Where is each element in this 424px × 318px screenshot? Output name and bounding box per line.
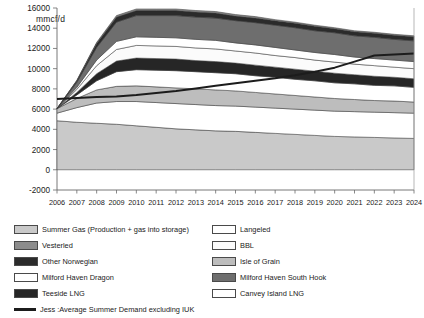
legend-color-swatch [14, 257, 38, 266]
x-axis-tick-label: 2016 [247, 198, 263, 207]
legend-item: Other Norwegian [14, 254, 214, 269]
x-axis-tick-label: 2011 [148, 198, 164, 207]
legend-item: Jess :Average Summer Demand excluding IU… [14, 302, 214, 317]
legend-item: Summer Gas (Production + gas into storag… [14, 222, 214, 237]
x-axis-tick-label: 2021 [346, 198, 362, 207]
stacked-area-chart: 1600014000120001000080006000400020000-20… [0, 0, 424, 218]
legend-item-label: Milford Haven Dragon [42, 273, 114, 282]
y-axis-tick-label: 0 [45, 166, 50, 175]
legend-line-marker [14, 308, 36, 311]
legend-color-swatch [14, 289, 38, 298]
x-axis-tick-label: 2010 [128, 198, 144, 207]
legend-item-label: Milford Haven South Hook [240, 273, 326, 282]
legend-color-swatch [14, 273, 38, 282]
y-axis-tick-label: 4000 [32, 125, 51, 134]
x-axis-tick-label: 2006 [49, 198, 65, 207]
legend-item-label: BBL [240, 241, 254, 250]
legend-item-label: Other Norwegian [42, 257, 98, 266]
legend-color-swatch [212, 241, 236, 250]
legend-item-label: Teeside LNG [42, 289, 85, 298]
x-axis-tick-label: 2015 [227, 198, 243, 207]
legend-column-right: LangeledBBLIsle of GrainMilford Haven So… [212, 222, 417, 302]
x-axis-tick-label: 2017 [267, 198, 283, 207]
legend-color-swatch [14, 225, 38, 234]
legend-color-swatch [14, 241, 38, 250]
y-axis-tick-label: 14000 [27, 24, 50, 33]
legend-item-label: Summer Gas (Production + gas into storag… [42, 225, 189, 234]
legend-item-label: Canvey Island LNG [240, 289, 304, 298]
legend-item: BBL [212, 238, 417, 253]
x-axis-tick-label: 2020 [327, 198, 343, 207]
y-axis-tick-label: 6000 [32, 105, 51, 114]
legend-item: Milford Haven South Hook [212, 270, 417, 285]
x-axis-tick-label: 2018 [287, 198, 303, 207]
x-axis-tick-label: 2014 [208, 198, 224, 207]
x-axis-tick-label: 2013 [188, 198, 204, 207]
legend-color-swatch [212, 273, 236, 282]
legend-column-left: Summer Gas (Production + gas into storag… [14, 222, 214, 318]
y-axis-tick-label: 16000 [27, 4, 50, 13]
x-axis-tick-label: 2024 [406, 198, 422, 207]
legend-color-swatch [212, 289, 236, 298]
legend-item: Canvey Island LNG [212, 286, 417, 301]
x-axis-tick-label: 2019 [307, 198, 323, 207]
x-axis-tick-label: 2023 [386, 198, 402, 207]
legend-item-label: Langeled [240, 225, 270, 234]
y-axis-tick-label: 2000 [32, 146, 51, 155]
y-axis-tick-label: 10000 [27, 65, 50, 74]
legend-item: Langeled [212, 222, 417, 237]
x-axis-tick-label: 2009 [108, 198, 124, 207]
y-axis: 1600014000120001000080006000400020000-20… [27, 4, 57, 195]
chart-legend: Summer Gas (Production + gas into storag… [0, 222, 424, 310]
legend-color-swatch [212, 225, 236, 234]
stacked-area-series [57, 9, 414, 170]
x-axis-tick-label: 2007 [69, 198, 85, 207]
y-axis-tick-label: -2000 [29, 186, 50, 195]
y-axis-tick-label: 8000 [32, 85, 51, 94]
legend-item: Teeside LNG [14, 286, 214, 301]
x-axis-tick-label: 2008 [89, 198, 105, 207]
legend-item-label: Isle of Grain [240, 257, 280, 266]
x-axis: 2006200720082009201020112012201320142015… [49, 190, 422, 207]
legend-item: Isle of Grain [212, 254, 417, 269]
y-axis-tick-label: 12000 [27, 44, 50, 53]
legend-item-label: Vesterled [42, 241, 73, 250]
legend-item: Vesterled [14, 238, 214, 253]
x-axis-tick-label: 2012 [168, 198, 184, 207]
legend-color-swatch [212, 257, 236, 266]
x-axis-tick-label: 2022 [366, 198, 382, 207]
legend-item-label: Jess :Average Summer Demand excluding IU… [40, 305, 194, 314]
chart-container: mmcf/d 160001400012000100008000600040002… [0, 0, 424, 218]
legend-item: Milford Haven Dragon [14, 270, 214, 285]
